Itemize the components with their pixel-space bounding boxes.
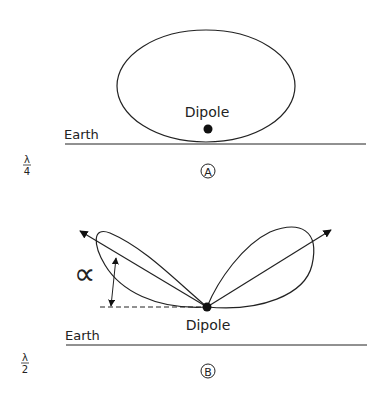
- svg-text:2: 2: [22, 364, 28, 375]
- svg-text:λ: λ: [24, 154, 30, 165]
- earth-label: Earth: [65, 328, 100, 343]
- diagram-svg: Dipole Earth λ 4 A ∝ Dipole Earth λ 2: [0, 0, 387, 399]
- dipole-label: Dipole: [186, 317, 231, 333]
- left-beam-arrow: [80, 231, 207, 307]
- dipole-point: [204, 125, 213, 134]
- figure-a: Dipole Earth λ 4 A: [23, 30, 366, 179]
- svg-text:λ: λ: [22, 352, 28, 363]
- right-lobe: [207, 227, 314, 308]
- height-fraction: λ 2: [21, 352, 29, 375]
- dipole-point: [203, 303, 212, 312]
- svg-text:A: A: [204, 166, 212, 179]
- elevation-angle-arrow: [111, 258, 116, 306]
- panel-label-b: B: [201, 364, 215, 379]
- dipole-radiation-diagram: Dipole Earth λ 4 A ∝ Dipole Earth λ 2: [0, 0, 387, 399]
- svg-text:4: 4: [24, 166, 30, 177]
- dipole-label: Dipole: [185, 104, 230, 120]
- svg-text:B: B: [204, 366, 212, 379]
- right-beam-arrow: [207, 230, 331, 307]
- panel-label-a: A: [201, 164, 215, 179]
- earth-label: Earth: [64, 127, 99, 142]
- figure-b: ∝ Dipole Earth λ 2 B: [21, 227, 367, 378]
- angle-alpha-label: ∝: [74, 256, 95, 291]
- left-lobe: [96, 232, 207, 308]
- height-fraction: λ 4: [23, 154, 31, 177]
